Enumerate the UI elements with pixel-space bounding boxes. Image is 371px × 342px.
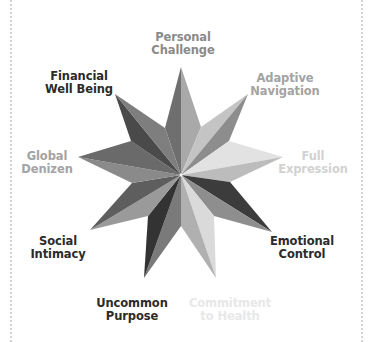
label-global-denizen: Global Denizen: [21, 150, 72, 176]
label-uncommon-purpose: Uncommon Purpose: [96, 297, 168, 323]
label-line2: Denizen: [21, 163, 72, 176]
diagram-frame: Personal Challenge Adaptive Navigation F…: [0, 0, 371, 342]
label-commitment-to-health: Commitment to Health: [189, 297, 271, 323]
label-full-expression: Full Expression: [278, 150, 348, 176]
label-emotional-control: Emotional Control: [270, 235, 334, 261]
label-line2: Purpose: [96, 310, 168, 323]
label-line2: Challenge: [151, 44, 214, 57]
label-line2: to Health: [189, 310, 271, 323]
label-personal-challenge: Personal Challenge: [151, 31, 214, 57]
star-center: [180, 174, 183, 177]
label-financial-well-being: Financial Well Being: [45, 70, 113, 96]
label-line2: Control: [270, 248, 334, 261]
label-line2: Intimacy: [30, 248, 85, 261]
label-adaptive-navigation: Adaptive Navigation: [250, 72, 319, 98]
label-line2: Well Being: [45, 83, 113, 96]
label-line2: Expression: [278, 163, 348, 176]
label-social-intimacy: Social Intimacy: [30, 235, 85, 261]
label-line2: Navigation: [250, 85, 319, 98]
